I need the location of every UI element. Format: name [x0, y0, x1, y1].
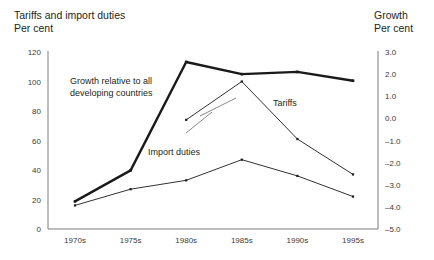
- annotation-growth-line1: Growth relative to all: [70, 76, 152, 86]
- right-axis-title-line2: Per cent: [374, 22, 413, 34]
- series-point-marker: [352, 79, 355, 82]
- left-axis-title-line1: Tariffs and import duties: [14, 9, 125, 21]
- left-axis-tick-label: 80: [32, 107, 41, 116]
- series-point-marker: [296, 71, 299, 74]
- series-point-marker: [185, 119, 187, 121]
- category-tick-label: 1995s: [342, 236, 364, 245]
- right-axis-tick-label: 0.0: [385, 114, 397, 123]
- right-axis-tick-label: 1.0: [385, 92, 397, 101]
- right-axis-tick-label: –2.0: [385, 159, 401, 168]
- chart-background: [0, 0, 434, 260]
- right-axis-tick-label: –4.0: [385, 203, 401, 212]
- category-tick-label: 1990s: [287, 236, 309, 245]
- left-axis-tick-label: 120: [28, 48, 42, 57]
- series-point-marker: [130, 188, 132, 190]
- category-tick-label: 1985s: [231, 236, 253, 245]
- series-point-marker: [296, 138, 298, 140]
- right-axis-tick-label: –5.0: [385, 225, 401, 234]
- series-point-marker: [74, 204, 76, 206]
- annotation-tariffs: Tariffs: [273, 98, 297, 108]
- chart-figure: Tariffs and import duties Per cent Growt…: [0, 0, 434, 260]
- series-point-marker: [241, 73, 244, 76]
- left-axis-tick-label: 20: [32, 196, 41, 205]
- right-axis-tick-label: 3.0: [385, 48, 397, 57]
- category-tick-label: 1970s: [64, 236, 86, 245]
- right-axis-title-line1: Growth: [374, 9, 408, 21]
- left-axis-tick-label: 100: [28, 78, 42, 87]
- series-point-marker: [352, 173, 354, 175]
- series-point-marker: [241, 80, 243, 82]
- left-axis-tick-label: 60: [32, 137, 41, 146]
- left-axis-tick-label: 40: [32, 166, 41, 175]
- right-axis-tick-label: –1.0: [385, 137, 401, 146]
- annotation-growth-line2: developing countries: [70, 88, 153, 98]
- series-point-marker: [129, 169, 132, 172]
- series-point-marker: [352, 195, 354, 197]
- category-tick-label: 1980s: [175, 236, 197, 245]
- series-point-marker: [74, 200, 77, 203]
- series-point-marker: [296, 175, 298, 177]
- series-point-marker: [185, 179, 187, 181]
- left-axis-tick-label: 0: [37, 225, 42, 234]
- category-tick-label: 1975s: [120, 236, 142, 245]
- right-axis-tick-label: –3.0: [385, 181, 401, 190]
- left-axis-title-line2: Per cent: [14, 22, 53, 34]
- annotation-import-duties: Import duties: [148, 147, 201, 157]
- series-point-marker: [241, 159, 243, 161]
- series-point-marker: [185, 61, 188, 64]
- right-axis-tick-label: 2.0: [385, 70, 397, 79]
